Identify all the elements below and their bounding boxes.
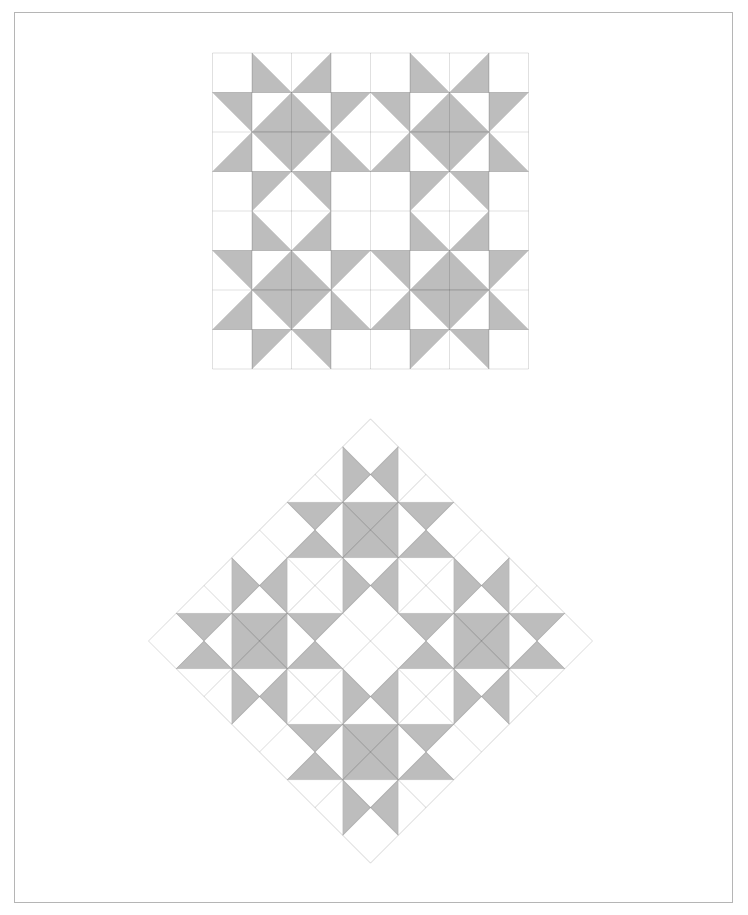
- page: [0, 0, 748, 915]
- quilt-straight: [213, 53, 529, 369]
- quilt-on-point: [148, 419, 592, 863]
- quilt-figure-canvas: [0, 0, 748, 915]
